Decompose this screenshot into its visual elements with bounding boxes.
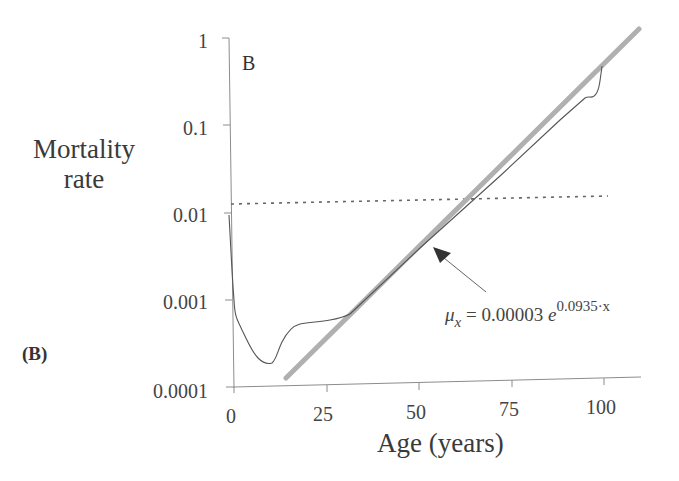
equation-coefficient: 0.00003 bbox=[481, 304, 543, 325]
equation-equals: = bbox=[466, 304, 477, 325]
y-tick-marks bbox=[222, 38, 234, 387]
panel-label-outer: (B) bbox=[22, 343, 47, 365]
y-tick-label-1: 1 bbox=[118, 30, 208, 53]
x-axis-line bbox=[234, 377, 641, 387]
x-tick-label-25: 25 bbox=[298, 403, 348, 426]
x-axis-label: Age (years) bbox=[377, 428, 504, 459]
y-tick-label-0.0001: 0.0001 bbox=[118, 380, 208, 403]
equation-mu: μ bbox=[445, 304, 455, 325]
x-tick-label-0: 0 bbox=[206, 405, 256, 428]
dotted-reference-line bbox=[231, 196, 608, 204]
y-tick-label-0.1: 0.1 bbox=[118, 117, 208, 140]
arrow-head-icon bbox=[433, 247, 451, 263]
x-tick-label-100: 100 bbox=[576, 396, 626, 419]
arrow-shaft bbox=[444, 258, 486, 292]
y-tick-label-0.01: 0.01 bbox=[118, 204, 208, 227]
gompertz-equation: μx = 0.00003 e0.0935·x bbox=[445, 298, 610, 331]
y-axis-label-line2: rate bbox=[14, 164, 154, 194]
panel-label-inner: B bbox=[242, 52, 255, 75]
y-tick-label-0.001: 0.001 bbox=[118, 291, 208, 314]
y-axis-label: Mortality rate bbox=[14, 134, 154, 194]
x-tick-label-75: 75 bbox=[484, 398, 534, 421]
equation-subscript: x bbox=[455, 314, 462, 330]
equation-exponent: 0.0935·x bbox=[556, 298, 610, 314]
x-tick-label-50: 50 bbox=[391, 401, 441, 424]
